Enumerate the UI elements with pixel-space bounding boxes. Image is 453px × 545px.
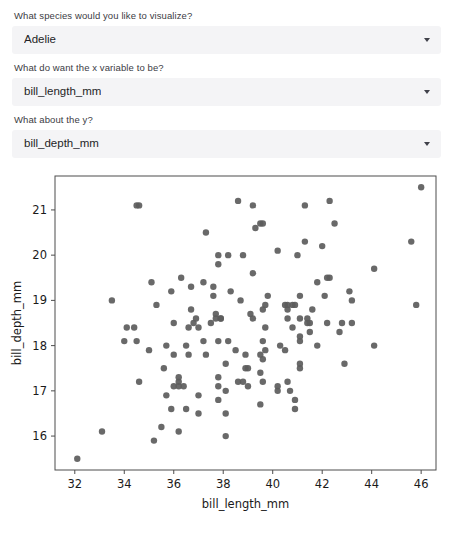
data-point — [297, 338, 303, 344]
data-point — [131, 324, 137, 330]
data-point — [99, 428, 105, 434]
data-point — [240, 379, 246, 385]
data-point — [307, 320, 313, 326]
data-point — [260, 356, 266, 362]
data-point — [294, 252, 300, 258]
data-point — [124, 324, 130, 330]
data-point — [176, 428, 182, 434]
data-point — [262, 347, 268, 353]
y-axis-title: bill_depth_mm — [10, 281, 24, 365]
data-point — [292, 406, 298, 412]
data-points — [74, 184, 424, 462]
y-variable-select[interactable]: bill_depth_mm — [12, 130, 441, 158]
control-species: What species would you like to visualize… — [12, 0, 441, 54]
svg-text:40: 40 — [265, 477, 280, 491]
svg-text:36: 36 — [166, 477, 181, 491]
data-point — [346, 288, 352, 294]
x-axis-title: bill_length_mm — [202, 497, 289, 511]
data-point — [121, 338, 127, 344]
data-point — [302, 238, 308, 244]
data-point — [289, 324, 295, 330]
data-point — [408, 238, 414, 244]
data-point — [262, 302, 268, 308]
data-point — [223, 361, 229, 367]
data-point — [237, 297, 243, 303]
data-point — [250, 315, 256, 321]
data-point — [277, 342, 283, 348]
y-variable-selected-value: bill_depth_mm — [24, 138, 99, 150]
data-point — [153, 302, 159, 308]
data-point — [284, 379, 290, 385]
data-point — [326, 198, 332, 204]
data-point — [195, 392, 201, 398]
x-axis-ticks: 3234363840424446 — [67, 470, 428, 491]
svg-text:34: 34 — [117, 477, 132, 491]
data-point — [136, 379, 142, 385]
chevron-down-icon[interactable] — [424, 142, 430, 146]
data-point — [284, 315, 290, 321]
data-point — [163, 392, 169, 398]
data-point — [188, 306, 194, 312]
x-variable-label: What do want the x variable to be? — [14, 62, 441, 74]
chevron-down-icon[interactable] — [424, 90, 430, 94]
data-point — [215, 374, 221, 380]
species-select[interactable]: Adelie — [12, 26, 441, 54]
data-point — [319, 243, 325, 249]
data-point — [223, 410, 229, 416]
data-point — [297, 315, 303, 321]
data-point — [223, 433, 229, 439]
data-point — [215, 338, 221, 344]
data-point — [331, 220, 337, 226]
data-point — [178, 275, 184, 281]
species-selected-value: Adelie — [24, 34, 56, 46]
data-point — [151, 437, 157, 443]
data-point — [163, 342, 169, 348]
plot-frame — [55, 176, 436, 470]
data-point — [215, 397, 221, 403]
data-point — [195, 324, 201, 330]
data-point — [203, 351, 209, 357]
svg-text:44: 44 — [364, 477, 379, 491]
data-point — [282, 347, 288, 353]
data-point — [250, 270, 256, 276]
data-point — [185, 351, 191, 357]
data-point — [109, 297, 115, 303]
data-point — [210, 284, 216, 290]
data-point — [168, 288, 174, 294]
data-point — [307, 329, 313, 335]
data-point — [287, 388, 293, 394]
data-point — [265, 293, 271, 299]
data-point — [195, 410, 201, 416]
data-point — [309, 306, 315, 312]
data-point — [225, 338, 231, 344]
data-point — [183, 342, 189, 348]
svg-text:42: 42 — [315, 477, 330, 491]
data-point — [371, 342, 377, 348]
y-axis-ticks: 161718192021 — [32, 203, 55, 443]
data-point — [349, 320, 355, 326]
data-point — [297, 293, 303, 299]
data-point — [74, 455, 80, 461]
data-point — [185, 324, 191, 330]
svg-text:38: 38 — [216, 477, 231, 491]
data-point — [262, 324, 268, 330]
data-point — [257, 370, 263, 376]
data-point — [168, 406, 174, 412]
svg-text:16: 16 — [32, 429, 47, 443]
x-variable-select[interactable]: bill_length_mm — [12, 78, 441, 106]
data-point — [158, 424, 164, 430]
data-point — [260, 220, 266, 226]
data-point — [314, 342, 320, 348]
data-point — [133, 338, 139, 344]
data-point — [200, 338, 206, 344]
chevron-down-icon[interactable] — [424, 38, 430, 42]
data-point — [336, 329, 342, 335]
scatter-plot-figure: 3234363840424446 161718192021 bill_lengt… — [0, 170, 453, 515]
data-point — [242, 351, 248, 357]
svg-text:21: 21 — [32, 203, 47, 217]
data-point — [418, 184, 424, 190]
data-point — [341, 361, 347, 367]
svg-text:32: 32 — [67, 477, 82, 491]
svg-text:19: 19 — [32, 293, 47, 307]
control-y-variable: What about the y? bill_depth_mm — [12, 114, 441, 158]
